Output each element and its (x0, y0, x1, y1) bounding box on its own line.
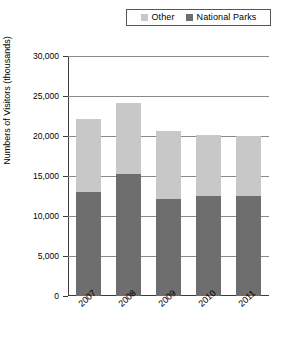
y-tick-mark (63, 296, 68, 297)
bar-segment-national-parks[interactable] (196, 196, 221, 296)
bar-segment-other[interactable] (76, 119, 101, 192)
y-tick-label: 15,000 (33, 172, 59, 181)
gridline (68, 96, 269, 97)
bar-group[interactable] (156, 131, 181, 296)
legend-label-other: Other (152, 13, 175, 22)
bar-group[interactable] (76, 119, 101, 296)
bar-segment-national-parks[interactable] (76, 192, 101, 296)
legend-label-national-parks: National Parks (197, 13, 257, 22)
legend-entry-national-parks: National Parks (186, 13, 257, 22)
y-tick-label: 5,000 (38, 252, 59, 261)
y-axis-title: Numbers of Visitors (thousands) (3, 21, 12, 181)
legend-swatch-other (141, 14, 148, 21)
caption-text (0, 327, 307, 339)
y-tick-label: 25,000 (33, 92, 59, 101)
y-tick-label: 20,000 (33, 132, 59, 141)
bar-segment-national-parks[interactable] (156, 199, 181, 296)
y-tick-label: 30,000 (33, 52, 59, 61)
bar-segment-other[interactable] (196, 135, 221, 196)
legend-swatch-national-parks (186, 14, 193, 21)
y-tick-label: 10,000 (33, 212, 59, 221)
bar-segment-national-parks[interactable] (236, 196, 261, 296)
y-tick-label: 0 (54, 292, 59, 301)
chart-legend: Other National Parks (126, 9, 271, 26)
bar-segment-other[interactable] (236, 136, 261, 196)
gridline (68, 56, 269, 57)
bar-group[interactable] (236, 136, 261, 296)
stacked-bar-chart-figure: Other National Parks 05,00010,00015,0002… (0, 0, 307, 341)
bar-segment-other[interactable] (116, 103, 141, 173)
bar-group[interactable] (116, 103, 141, 296)
legend-entry-other: Other (141, 13, 175, 22)
plot-area (68, 56, 269, 296)
bar-segment-other[interactable] (156, 131, 181, 199)
bar-group[interactable] (196, 135, 221, 296)
bar-segment-national-parks[interactable] (116, 174, 141, 296)
